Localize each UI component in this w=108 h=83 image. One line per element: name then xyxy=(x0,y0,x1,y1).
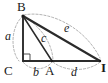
segment-label-b: b xyxy=(33,66,39,78)
right-angle-marker-c xyxy=(23,54,30,61)
arc-a xyxy=(13,16,23,61)
solid-edge-group xyxy=(23,16,100,61)
vertex-label-b: B xyxy=(17,0,26,13)
vertex-dot-b xyxy=(21,14,24,17)
segment-label-a: a xyxy=(5,30,11,42)
segment-label-d: d xyxy=(71,66,77,78)
segment-label-e: e xyxy=(64,22,69,34)
vertex-label-c: C xyxy=(4,64,13,77)
vertex-label-a: A xyxy=(45,64,54,77)
geometry-figure: B C A I a c e b d xyxy=(0,0,108,83)
edge-b-d xyxy=(23,16,100,61)
vertex-dot-a xyxy=(51,60,53,62)
segment-label-c: c xyxy=(41,32,46,44)
vertex-label-d: I xyxy=(101,61,106,74)
